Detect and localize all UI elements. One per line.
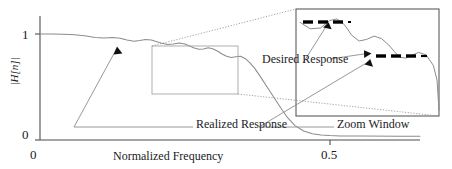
desired-response-annotation: Desired Response <box>262 53 348 65</box>
realized-response-annotation: Realized Response <box>196 118 287 130</box>
y-axis-title: |H[n]| <box>9 42 20 102</box>
zoom-window-annotation: Zoom Window <box>337 118 409 130</box>
x-axis-tick-label-half: 0.5 <box>321 148 337 161</box>
x-axis-title: Normalized Frequency <box>113 150 223 162</box>
realized-response-arrowhead <box>114 47 123 55</box>
y-axis-tick-label-1: 1 <box>22 28 29 41</box>
filter-response-figure <box>0 0 452 169</box>
desired-response-arrowhead-lower <box>364 50 372 58</box>
x-axis-tick-label-0: 0 <box>30 148 37 161</box>
zoom-connector-top <box>152 9 296 46</box>
realized-response-leader <box>74 47 193 128</box>
zoom-window-rect[interactable] <box>152 46 238 94</box>
zoom-connector-bottom <box>238 94 439 116</box>
y-axis-tick-label-0: 0 <box>22 128 29 141</box>
